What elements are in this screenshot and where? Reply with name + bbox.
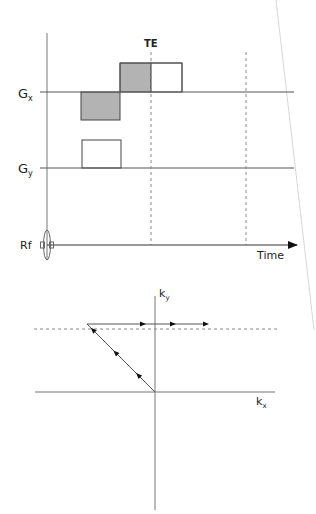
te-label: TE [144, 38, 158, 49]
gy-phase-encode-lobe [82, 140, 121, 168]
k-space-diagram: ky kx [34, 287, 278, 510]
gy-label: Gy [18, 161, 33, 178]
gx-readout-lobe-shaded [120, 63, 151, 92]
kx-label: kx [256, 395, 267, 410]
time-label: Time [256, 249, 284, 262]
pulse-sequence-and-kspace-diagram: Gx Gy Rf Time TE ky kx [0, 0, 316, 514]
ky-label: ky [159, 287, 170, 302]
rf-label: Rf [20, 239, 33, 252]
gx-label: Gx [18, 86, 33, 103]
pulse-sequence: Gx Gy Rf Time TE [18, 33, 297, 262]
trajectory-arrow-icon [140, 322, 146, 327]
gx-readout-lobe-open [151, 63, 182, 92]
trajectory-arrow-icon [170, 322, 176, 327]
gx-dephasing-lobe [81, 92, 120, 120]
page-edge-line [276, 0, 314, 330]
trajectory-diagonal [87, 324, 155, 392]
trajectory-arrow-icon [203, 322, 209, 327]
